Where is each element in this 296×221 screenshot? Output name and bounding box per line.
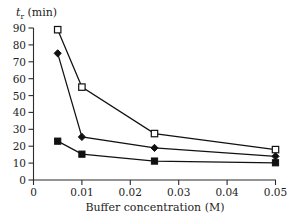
series-line (58, 141, 276, 163)
series-line (58, 53, 276, 156)
data-point-marker (78, 133, 85, 140)
data-point-marker (79, 84, 85, 90)
y-axis-ticks (29, 28, 34, 180)
y-tick-label: 20 (13, 140, 26, 152)
series-open-square (55, 26, 279, 152)
data-point-marker (55, 138, 61, 144)
series-line (58, 30, 276, 150)
y-tick-label: 30 (13, 123, 26, 135)
y-tick-label: 90 (13, 22, 26, 34)
chart-plot-area: tr (min) 90 80 70 60 50 40 30 20 (0, 0, 296, 221)
y-tick-label: 60 (13, 73, 26, 85)
series-filled-diamond (54, 50, 279, 160)
x-tick-label: 0 (30, 186, 37, 198)
x-tick-label: 0.01 (70, 186, 93, 198)
x-axis-ticks (34, 180, 276, 185)
y-tick-label: 0 (19, 174, 26, 186)
chart-series-layer (54, 26, 279, 165)
data-point-marker (79, 151, 85, 157)
data-point-marker (272, 153, 279, 160)
data-point-marker (54, 50, 61, 57)
series-filled-square (55, 138, 279, 166)
chart-figure: tr (min) 90 80 70 60 50 40 30 20 (0, 0, 296, 221)
data-point-marker (272, 160, 278, 166)
y-tick-label: 50 (13, 90, 26, 102)
y-tick-label: 70 (13, 56, 26, 68)
data-point-marker (151, 158, 157, 164)
x-axis-title: Buffer concentration (M) (85, 201, 224, 214)
y-axis-tick-labels: 90 80 70 60 50 40 30 20 10 0 (13, 22, 26, 186)
x-tick-label: 0.04 (215, 186, 239, 198)
y-axis-title: tr (min) (16, 6, 57, 21)
x-tick-label: 0.02 (119, 186, 142, 198)
x-tick-label: 0.05 (264, 186, 287, 198)
data-point-marker (151, 144, 158, 151)
y-tick-label: 10 (13, 157, 26, 169)
y-tick-label: 40 (13, 106, 26, 118)
data-point-marker (55, 26, 61, 32)
x-tick-label: 0.03 (167, 186, 190, 198)
y-tick-label: 80 (13, 39, 26, 51)
x-axis-tick-labels: 0 0.01 0.02 0.03 0.04 0.05 (30, 186, 287, 198)
data-point-marker (272, 146, 278, 152)
data-point-marker (151, 130, 157, 136)
